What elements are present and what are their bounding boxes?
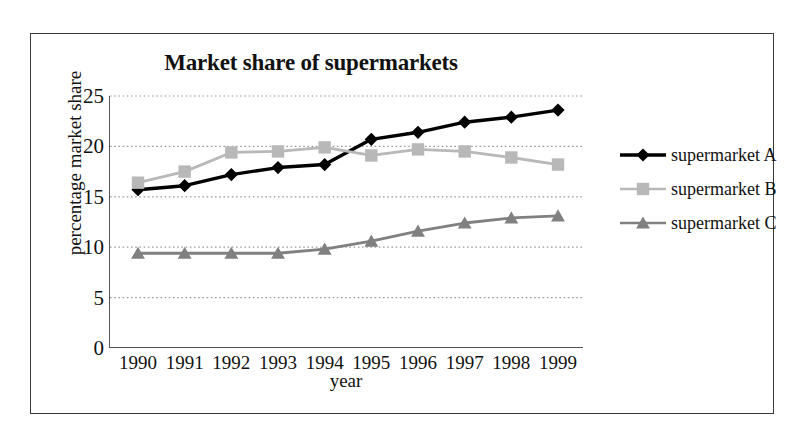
square-marker-icon [318, 141, 330, 153]
chart-title: Market share of supermarkets [31, 50, 591, 76]
square-marker-icon [619, 178, 667, 200]
square-marker-icon [458, 145, 470, 157]
square-marker-icon [272, 145, 284, 157]
y-tick-label: 15 [83, 184, 104, 209]
diamond-marker-icon [458, 116, 471, 129]
diamond-marker-icon [178, 179, 191, 192]
diamond-marker-icon [505, 111, 518, 124]
square-marker-icon [505, 151, 517, 163]
gridlines-group [110, 96, 584, 298]
x-axis-title: year [109, 370, 583, 392]
plot-svg [110, 96, 584, 348]
diamond-marker-icon [411, 126, 424, 139]
y-tick-label: 0 [94, 336, 105, 361]
square-marker-icon [132, 176, 144, 188]
square-marker-icon [552, 158, 564, 170]
series-line [138, 110, 558, 190]
figure-frame: Market share of supermarkets percentage … [30, 33, 774, 414]
legend-item-label: supermarket A [671, 145, 776, 166]
y-tick-label: 25 [83, 84, 104, 109]
series-3 [131, 209, 565, 259]
square-marker-icon [178, 165, 190, 177]
series-1 [131, 104, 564, 197]
diamond-marker-icon [619, 144, 667, 166]
legend-item[interactable]: supermarket A [619, 138, 769, 172]
square-marker-icon [225, 146, 237, 158]
legend-item[interactable]: supermarket C [619, 206, 769, 240]
legend-item-label: supermarket C [671, 213, 776, 234]
plot-area: 0510152025 19901991199219931994199519961… [109, 96, 583, 348]
square-marker-icon [365, 149, 377, 161]
legend-item-label: supermarket B [671, 179, 776, 200]
y-tick-label: 5 [94, 285, 105, 310]
y-tick-label: 20 [83, 134, 104, 159]
diamond-marker-icon [318, 158, 331, 171]
series-line [138, 147, 558, 182]
square-marker-icon [412, 143, 424, 155]
series-group [131, 104, 565, 259]
square-marker-icon [637, 183, 649, 195]
y-tick-label: 10 [83, 235, 104, 260]
diamond-marker-icon [225, 168, 238, 181]
legend-item[interactable]: supermarket B [619, 172, 769, 206]
chart-legend: supermarket Asupermarket Bsupermarket C [619, 138, 769, 240]
triangle-marker-icon [619, 212, 667, 234]
diamond-marker-icon [271, 161, 284, 174]
diamond-marker-icon [551, 104, 564, 117]
diamond-marker-icon [365, 133, 378, 146]
diamond-marker-icon [636, 148, 649, 161]
series-line [138, 216, 558, 253]
